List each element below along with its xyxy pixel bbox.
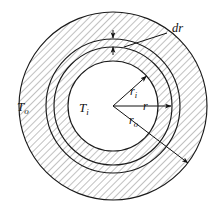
radius-label: r: [143, 99, 148, 113]
annulus-cross-section-diagram: To Ti ri r ro dr: [0, 0, 222, 209]
figure-canvas: To Ti ri r ro dr: [0, 0, 222, 209]
dr-thickness-label: dr: [172, 21, 183, 35]
